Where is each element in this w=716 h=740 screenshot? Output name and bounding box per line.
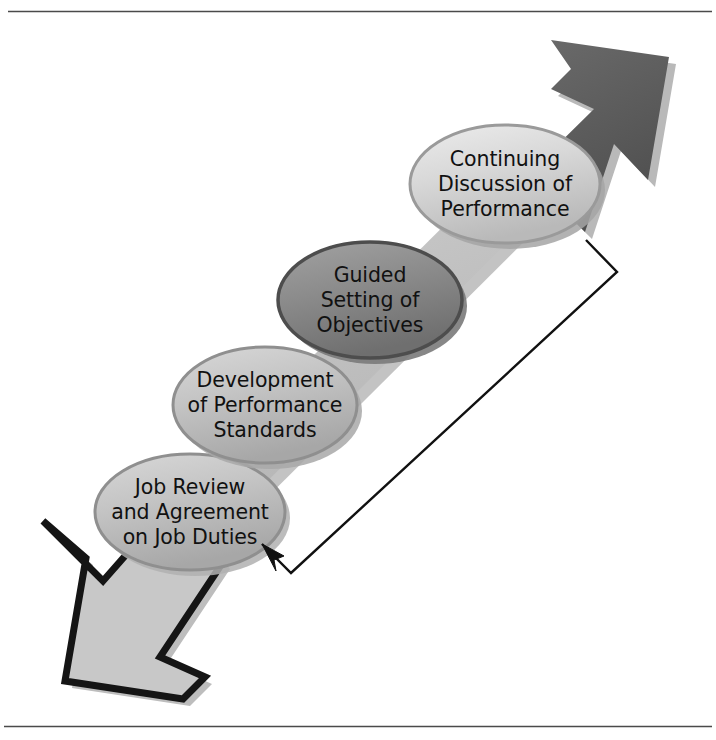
stage-job-review-line-1: Job Review bbox=[133, 475, 245, 499]
stage-continuing-discussion-line-1: Continuing bbox=[450, 147, 560, 171]
stage-continuing-discussion-line-3: Performance bbox=[441, 197, 570, 221]
stage-development-standards-line-1: Development bbox=[197, 368, 334, 392]
stage-guided-setting-line-1: Guided bbox=[334, 263, 407, 287]
stage-job-review-line-3: on Job Duties bbox=[123, 525, 258, 549]
stage-continuing-discussion-line-2: Discussion of bbox=[438, 172, 573, 196]
stage-guided-setting[interactable]: Guided Setting of Objectives bbox=[278, 242, 467, 364]
stage-job-review-line-2: and Agreement bbox=[111, 500, 269, 524]
stage-development-standards-line-3: Standards bbox=[213, 418, 316, 442]
stage-development-standards[interactable]: Development of Performance Standards bbox=[173, 347, 362, 469]
stage-guided-setting-line-2: Setting of bbox=[321, 288, 421, 312]
diagram-page: Job Review and Agreement on Job Duties D… bbox=[0, 0, 716, 740]
stage-development-standards-line-2: of Performance bbox=[188, 393, 343, 417]
stage-guided-setting-line-3: Objectives bbox=[317, 313, 424, 337]
process-diagram: Job Review and Agreement on Job Duties D… bbox=[0, 0, 716, 740]
